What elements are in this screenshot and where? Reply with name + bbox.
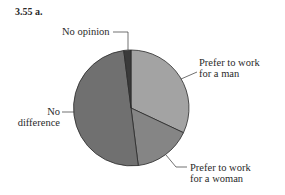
- label-no-difference: No difference: [15, 106, 60, 128]
- leader-man: [181, 72, 197, 79]
- label-prefer-woman: Prefer to work for a woman: [190, 162, 251, 184]
- leader-no-opinion: [113, 32, 128, 50]
- label-prefer-man: Prefer to work for a man: [199, 57, 260, 79]
- pie-slices: [74, 50, 189, 166]
- label-no-opinion: No opinion: [62, 26, 110, 37]
- leader-woman: [166, 155, 187, 167]
